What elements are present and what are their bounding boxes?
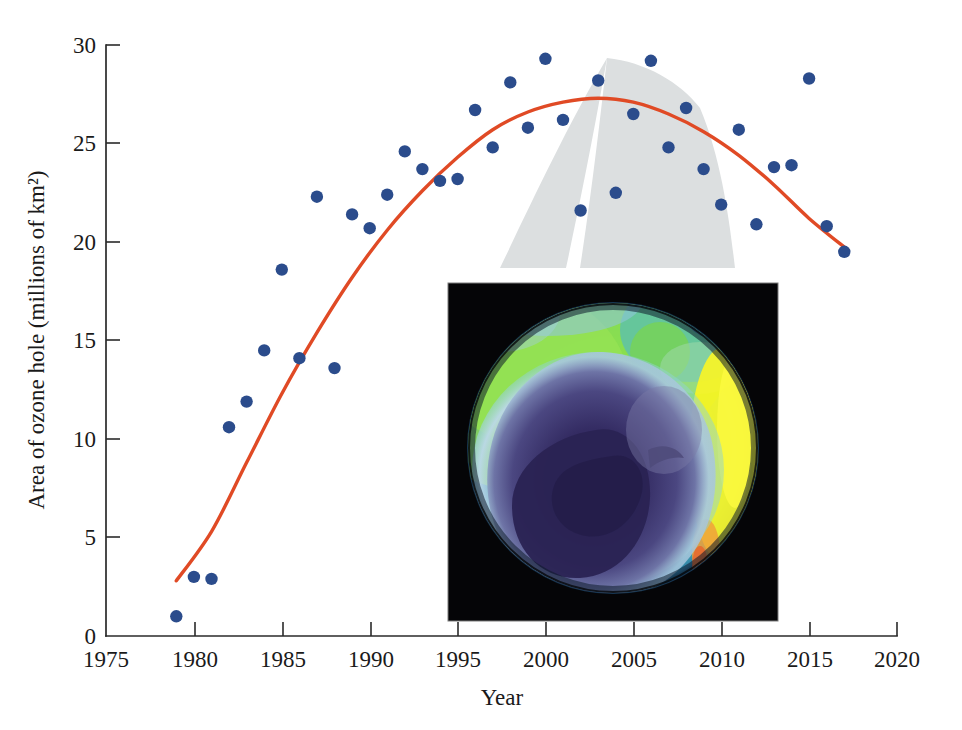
ozone-hole-satellite-image: [410, 264, 778, 621]
y-axis-tick-labels: 30 25 20 15 10 5 0: [73, 33, 96, 649]
data-point: [803, 72, 815, 84]
data-point: [293, 352, 305, 364]
data-point: [276, 263, 288, 275]
data-point: [381, 189, 393, 201]
data-point: [364, 222, 376, 234]
data-point: [592, 74, 604, 86]
data-point: [170, 610, 182, 622]
data-point: [258, 344, 270, 356]
data-point: [680, 102, 692, 114]
data-point: [223, 421, 235, 433]
data-point: [557, 114, 569, 126]
data-point: [768, 161, 780, 173]
data-point: [539, 53, 551, 65]
data-point: [838, 246, 850, 258]
data-point: [328, 362, 340, 374]
x-tick-label-2020: 2020: [874, 647, 920, 672]
x-tick-label-2010: 2010: [699, 647, 745, 672]
data-point: [469, 104, 481, 116]
data-point: [240, 395, 252, 407]
data-point: [627, 108, 639, 120]
data-point: [311, 191, 323, 203]
data-point: [451, 173, 463, 185]
data-point: [416, 163, 428, 175]
y-axis-title: Area of ozone hole (millions of km²): [24, 170, 49, 509]
x-axis-title: Year: [481, 685, 524, 710]
x-tick-label-2015: 2015: [787, 647, 833, 672]
x-tick-label-2005: 2005: [611, 647, 657, 672]
data-point: [205, 573, 217, 585]
y-tick-label-20: 20: [73, 230, 96, 255]
data-point: [504, 76, 516, 88]
y-axis-ticks: [106, 45, 120, 537]
data-point: [487, 141, 499, 153]
y-tick-label-0: 0: [85, 624, 97, 649]
chart-page: 30 25 20 15 10 5 0 1975 1980 1985 1990 1…: [0, 0, 962, 730]
data-point: [434, 175, 446, 187]
data-point: [610, 187, 622, 199]
data-point: [750, 218, 762, 230]
data-point: [346, 208, 358, 220]
data-point: [645, 55, 657, 67]
data-point: [715, 198, 727, 210]
data-point: [697, 163, 709, 175]
x-tick-label-1985: 1985: [260, 647, 306, 672]
data-point: [821, 220, 833, 232]
x-tick-label-1980: 1980: [172, 647, 218, 672]
x-tick-label-1990: 1990: [348, 647, 394, 672]
data-point: [733, 124, 745, 136]
x-tick-label-1995: 1995: [435, 647, 481, 672]
y-tick-label-30: 30: [73, 33, 96, 58]
x-tick-label-2000: 2000: [523, 647, 569, 672]
y-tick-label-10: 10: [73, 427, 96, 452]
y-tick-label-5: 5: [85, 525, 97, 550]
x-tick-label-1975: 1975: [83, 647, 129, 672]
data-point: [188, 571, 200, 583]
data-point: [662, 141, 674, 153]
y-tick-label-25: 25: [73, 131, 96, 156]
magnifier-callout-wedge: [500, 58, 735, 268]
ozone-hole-area-chart: 30 25 20 15 10 5 0 1975 1980 1985 1990 1…: [0, 0, 962, 730]
data-point: [785, 159, 797, 171]
x-axis-ticks: [195, 622, 897, 636]
y-tick-label-15: 15: [73, 328, 96, 353]
data-point: [399, 145, 411, 157]
x-axis-tick-labels: 1975 1980 1985 1990 1995 2000 2005 2010 …: [83, 647, 920, 672]
data-point: [522, 122, 534, 134]
data-point: [574, 204, 586, 216]
